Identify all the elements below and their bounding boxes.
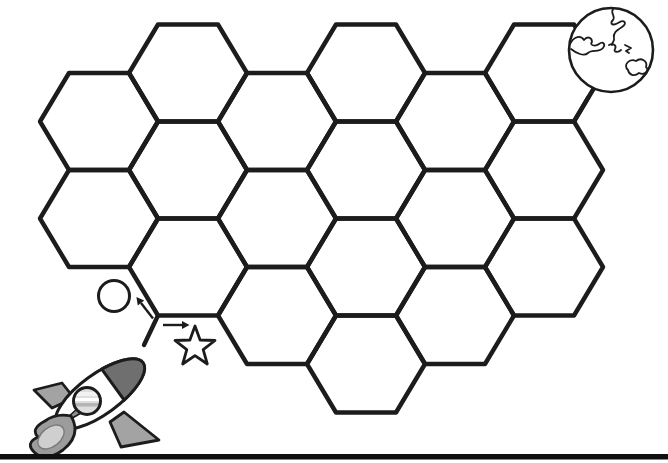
hex-cell-1-2: [129, 219, 247, 316]
hex-cell-3-2: [307, 219, 425, 316]
ground-line-group: [0, 454, 668, 460]
rocket-window-stripe-2: [72, 403, 102, 407]
maze-canvas: [0, 0, 668, 463]
start-circle-marker: [99, 281, 130, 312]
planet-earth-globe: [569, 8, 653, 92]
hex-cell-4-2: [396, 267, 514, 364]
maze-exit-stub: [574, 97, 589, 122]
arrow-right-to-star-head: [182, 321, 190, 329]
entry-exit-stubs: [144, 97, 589, 345]
hex-cell-2-0: [218, 73, 336, 170]
hex-cell-4-1: [396, 170, 514, 267]
hex-cell-4-0: [396, 73, 514, 170]
rocket-fin-bottom: [110, 412, 159, 447]
hex-cell-0-0: [40, 73, 158, 170]
ground-line: [0, 454, 668, 460]
hex-cell-1-0: [129, 25, 247, 122]
planet-earth-illustration: [569, 8, 653, 92]
hex-cell-2-1: [218, 170, 336, 267]
start-star-marker: [175, 326, 215, 364]
hex-cell-0-1: [40, 170, 158, 267]
rocket-window-stripe-1: [72, 398, 102, 401]
rocket-illustration: [30, 347, 159, 457]
worksheet-page: [0, 0, 668, 463]
hex-cell-5-1: [485, 122, 603, 219]
hex-cell-3-1: [307, 122, 425, 219]
hex-cell-2-2: [218, 267, 336, 364]
hex-cell-3-3: [307, 316, 425, 413]
hex-cell-5-2: [485, 219, 603, 316]
maze-entry-stub: [144, 316, 158, 346]
hex-cell-3-0: [307, 25, 425, 122]
hex-cell-1-1: [129, 122, 247, 219]
hex-grid: [40, 25, 603, 413]
